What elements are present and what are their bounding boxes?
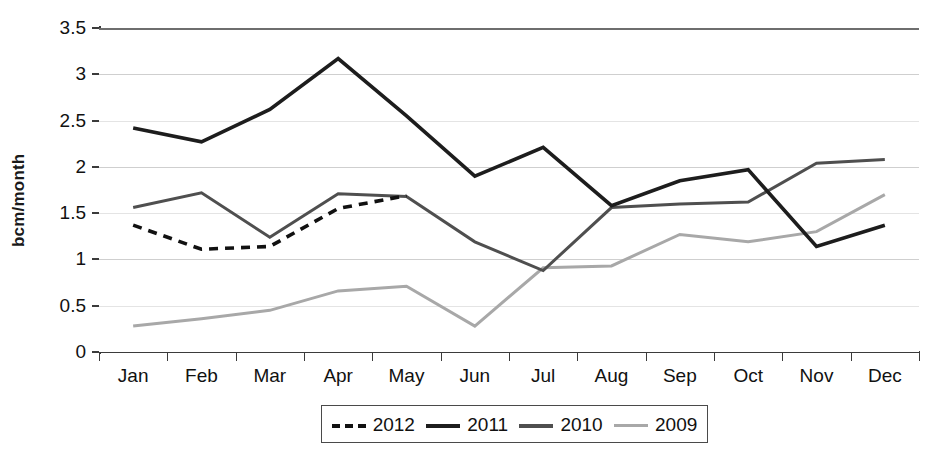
legend-label: 2012 <box>373 415 415 434</box>
legend-label: 2009 <box>655 415 697 434</box>
y-axis-title: bcm/month <box>6 120 32 280</box>
x-axis-tick-label: Feb <box>167 365 235 387</box>
y-axis-tick-label: 1 <box>32 249 86 268</box>
x-axis-tick <box>919 352 920 361</box>
x-axis-tick-label: Dec <box>851 365 919 387</box>
x-axis-tick <box>714 352 715 361</box>
x-axis-tick <box>441 352 442 361</box>
series-line-2010 <box>133 159 885 270</box>
x-axis-tick <box>99 352 100 361</box>
y-axis-tick-label: 3.5 <box>32 18 86 37</box>
legend-item-2011[interactable]: 2011 <box>426 415 508 434</box>
x-axis-tick-label: Jan <box>99 365 167 387</box>
x-axis-tick-label: Jun <box>441 365 509 387</box>
x-axis-tick-label: Mar <box>236 365 304 387</box>
y-axis-tick-label: 0.5 <box>32 296 86 315</box>
plot-area <box>99 28 919 352</box>
y-axis-tick-label: 3 <box>32 64 86 83</box>
y-axis-tick-label: 0 <box>32 342 86 361</box>
x-axis-tick-label: Nov <box>782 365 850 387</box>
x-axis-tick <box>577 352 578 361</box>
x-axis-tick <box>509 352 510 361</box>
legend-item-2012[interactable]: 2012 <box>332 415 415 434</box>
x-axis-tick <box>782 352 783 361</box>
x-axis-tick <box>167 352 168 361</box>
x-axis-tick <box>236 352 237 361</box>
x-axis-tick-label: May <box>372 365 440 387</box>
series-lines <box>99 28 919 352</box>
x-axis-tick-label: Apr <box>304 365 372 387</box>
y-axis-tick-label: 1.5 <box>32 203 86 222</box>
x-axis-tick <box>646 352 647 361</box>
legend-item-2010[interactable]: 2010 <box>519 415 602 434</box>
x-axis-tick <box>372 352 373 361</box>
y-axis-tick-label: 2 <box>32 157 86 176</box>
legend-label: 2011 <box>467 415 508 434</box>
legend-item-2009[interactable]: 2009 <box>614 415 697 434</box>
legend-label: 2010 <box>560 415 602 434</box>
x-axis-tick-label: Sep <box>646 365 714 387</box>
x-axis-tick <box>851 352 852 361</box>
series-line-2009 <box>133 195 885 326</box>
legend: 2012201120102009 <box>321 405 708 443</box>
x-axis-tick <box>304 352 305 361</box>
series-line-2011 <box>133 59 885 247</box>
x-axis-tick-label: Oct <box>714 365 782 387</box>
chart-figure: bcm/month 00.511.522.533.5 JanFebMarAprM… <box>0 0 948 475</box>
series-line-2012 <box>133 196 406 250</box>
y-axis-tick-label: 2.5 <box>32 111 86 130</box>
x-axis-tick-label: Jul <box>509 365 577 387</box>
x-axis-tick-label: Aug <box>577 365 645 387</box>
